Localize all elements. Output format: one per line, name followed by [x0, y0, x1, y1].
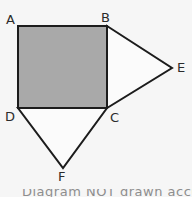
- vertex-label-f: F: [58, 170, 65, 183]
- figure-canvas: [0, 0, 192, 197]
- vertex-label-a: A: [6, 13, 15, 26]
- square-abcd: [18, 26, 107, 108]
- vertex-label-b: B: [101, 11, 110, 24]
- caption-strip: Diagram NOT drawn accurately: [0, 189, 192, 197]
- geometry-figure: A B C D E F Diagram NOT drawn accurately: [0, 0, 192, 197]
- vertex-label-e: E: [177, 61, 185, 74]
- vertex-label-d: D: [5, 110, 15, 123]
- vertex-label-c: C: [110, 111, 119, 124]
- figure-caption: Diagram NOT drawn accurately: [22, 189, 192, 197]
